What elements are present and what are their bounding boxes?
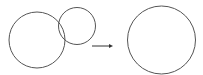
- right-merged-circle: [128, 6, 196, 74]
- left-small-circle: [59, 8, 96, 45]
- arrow-right-icon: [92, 44, 113, 48]
- left-large-circle: [9, 12, 65, 68]
- merge-diagram: [0, 0, 203, 75]
- arrow-head: [109, 44, 113, 48]
